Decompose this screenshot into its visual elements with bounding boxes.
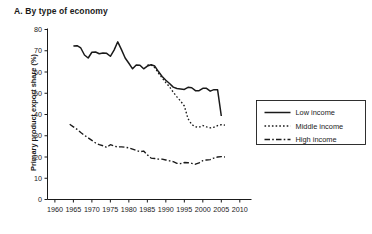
plot-area: 0102030405060708019601965197019751980198… bbox=[0, 0, 372, 234]
legend-label-low-income: Low income bbox=[296, 108, 335, 117]
x-axis-tick-label: 1995 bbox=[176, 205, 192, 214]
y-axis-tick-label: 70 bbox=[34, 46, 42, 55]
y-axis-tick-label: 0 bbox=[38, 195, 42, 204]
x-axis-tick-label: 1980 bbox=[121, 205, 137, 214]
x-axis-tick-label: 1965 bbox=[65, 205, 81, 214]
chart-figure: A. By type of economy Primary product ex… bbox=[0, 0, 372, 234]
y-axis-tick-label: 10 bbox=[34, 174, 42, 183]
y-axis-tick-label: 40 bbox=[34, 110, 42, 119]
x-axis-tick-label: 1960 bbox=[47, 205, 63, 214]
series-line-high-income bbox=[70, 124, 225, 164]
x-axis-tick-label: 2005 bbox=[213, 205, 229, 214]
series-line-middle-income bbox=[147, 65, 225, 128]
legend-label-high-income: High income bbox=[296, 135, 337, 144]
x-axis-tick-label: 1990 bbox=[158, 205, 174, 214]
x-axis-tick-label: 2010 bbox=[232, 205, 248, 214]
legend-box: Low incomeMiddle incomeHigh income bbox=[257, 101, 366, 145]
y-axis-tick-label: 30 bbox=[34, 131, 42, 140]
legend-label-middle-income: Middle income bbox=[296, 122, 344, 131]
y-axis-tick-label: 80 bbox=[34, 25, 42, 34]
y-axis-tick-label: 50 bbox=[34, 89, 42, 98]
x-axis-tick-label: 2000 bbox=[195, 205, 211, 214]
x-axis-tick-label: 1970 bbox=[84, 205, 100, 214]
x-axis-tick-label: 1985 bbox=[139, 205, 155, 214]
y-axis-tick-label: 20 bbox=[34, 153, 42, 162]
series-line-low-income bbox=[73, 42, 221, 116]
x-axis-tick-label: 1975 bbox=[102, 205, 118, 214]
y-axis-tick-label: 60 bbox=[34, 68, 42, 77]
axes-layer: 0102030405060708019601965197019751980198… bbox=[34, 25, 252, 213]
series-layer bbox=[70, 42, 225, 164]
